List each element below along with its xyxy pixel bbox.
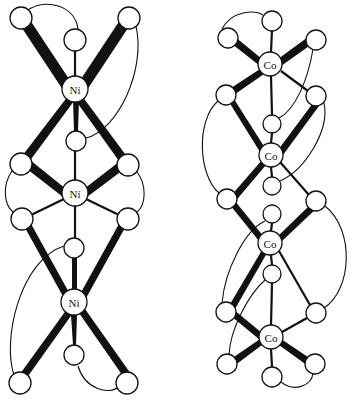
bond-wedge [79, 309, 131, 379]
ligand-atom [263, 265, 281, 283]
bond-wedge [24, 222, 71, 300]
ligand-atom [117, 208, 139, 230]
bond [271, 30, 272, 52]
cobalt-label: Co [265, 150, 278, 162]
ligand-atom [118, 7, 140, 29]
bond-wedge [229, 99, 265, 152]
ligand-atom [64, 238, 84, 258]
bond [271, 255, 272, 265]
bond-wedge [20, 309, 73, 379]
ligand-atom [306, 30, 326, 50]
ligand-atom [218, 28, 238, 48]
ligand-atom [216, 302, 236, 322]
nickel-trimer-structure: Ni Ni Ni [5, 4, 144, 394]
ligand-atom [217, 354, 237, 374]
bond [282, 318, 307, 332]
bond-wedge [278, 103, 319, 155]
chelate-arc [324, 206, 346, 308]
bond [271, 223, 272, 231]
bond [271, 133, 272, 143]
nickel-label: Ni [70, 188, 81, 200]
chelate-arc [28, 4, 78, 29]
bond-wedge [73, 100, 79, 131]
chelate-arc [5, 171, 13, 212]
chelate-arc [222, 12, 263, 29]
ligand-atom [262, 367, 282, 387]
bond-wedge [72, 258, 77, 290]
cobalt-label: Co [264, 59, 277, 71]
ligand-atom [116, 372, 138, 394]
ligand-atom [64, 345, 84, 365]
bond [271, 349, 272, 367]
bond [271, 167, 272, 177]
ligand-atom [262, 11, 282, 31]
nickel-label: Ni [69, 297, 80, 309]
cobalt-label: Co [264, 238, 277, 250]
chelate-arc [137, 172, 144, 212]
bond [271, 76, 272, 115]
ligand-atom [263, 115, 281, 133]
ligand-atom [263, 177, 281, 195]
ligand-atom [11, 208, 33, 230]
ligand-atom [117, 154, 139, 176]
ligand-atom [306, 86, 326, 106]
bond [86, 199, 119, 215]
chelate-arc [78, 366, 118, 391]
bond [279, 251, 310, 305]
bond [271, 283, 272, 325]
ligand-atom [216, 85, 236, 105]
bond [281, 71, 308, 91]
chelate-arc [281, 373, 313, 387]
bond-wedge [230, 201, 264, 241]
ligand-atom [306, 303, 326, 323]
nickel-label: Ni [70, 84, 81, 96]
bond-wedge [27, 160, 66, 197]
cobalt-tetramer-structure: Co Co Co Co [202, 11, 346, 387]
ligand-atom [10, 7, 32, 29]
bond [31, 199, 64, 215]
ligand-atom [10, 153, 32, 175]
ligand-atom [306, 191, 326, 211]
ligand-atom [9, 372, 31, 394]
ligand-atom [217, 189, 237, 209]
bond-wedge [71, 315, 77, 345]
chelate-arc [202, 101, 219, 193]
ligand-atom [64, 29, 86, 51]
cobalt-label: Co [265, 332, 278, 344]
bond-wedge [79, 222, 126, 300]
ligand-atom [66, 131, 86, 151]
ligand-atom [263, 205, 281, 223]
molecular-structure-diagram: Ni Ni Ni [0, 0, 355, 402]
ligand-atom [305, 354, 325, 374]
